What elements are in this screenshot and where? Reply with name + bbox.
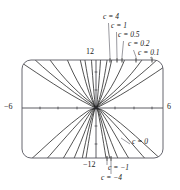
- curve-label-c-1: c = 1: [111, 22, 127, 30]
- bottom-leader-ticks: [107, 156, 111, 161]
- leader-c-05: [122, 41, 124, 57]
- curve-label-c-4: c = 4: [103, 13, 119, 21]
- leader-c-4: [109, 23, 111, 57]
- y-axis-bottom-label: −12: [83, 161, 96, 169]
- y-axis-top-label: 12: [86, 48, 94, 56]
- leader-c-1: [117, 32, 118, 57]
- leader-c-02: [134, 50, 137, 57]
- curve-label-c-01: c = 0.1: [138, 49, 160, 57]
- x-axis-left-label: −6: [4, 103, 13, 111]
- leader-c-0: [121, 138, 130, 144]
- curve-label-c-minus-4: c = −4: [101, 174, 122, 182]
- curve-label-c-02: c = 0.2: [128, 40, 150, 48]
- x-axis-right-label: 6: [167, 103, 171, 111]
- curve-label-c-minus-1: c = −1: [108, 164, 129, 172]
- curve-label-c-05: c = 0.5: [118, 31, 140, 39]
- curve-label-c-0: c = 0: [132, 138, 148, 146]
